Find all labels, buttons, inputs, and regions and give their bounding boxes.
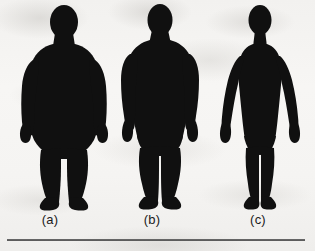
silhouette-b bbox=[114, 0, 206, 212]
body-type-figure: (a) (b) (c) bbox=[0, 0, 315, 251]
horizontal-rule-divider bbox=[7, 239, 305, 241]
mesomorph-silhouette-icon bbox=[114, 0, 206, 212]
caption-c: (c) bbox=[212, 212, 304, 227]
endomorph-silhouette-icon bbox=[14, 0, 114, 212]
silhouette-a bbox=[14, 0, 114, 212]
caption-a: (a) bbox=[0, 212, 100, 227]
silhouette-c bbox=[214, 0, 306, 212]
caption-b: (b) bbox=[108, 212, 196, 227]
ectomorph-silhouette-icon bbox=[214, 0, 306, 212]
